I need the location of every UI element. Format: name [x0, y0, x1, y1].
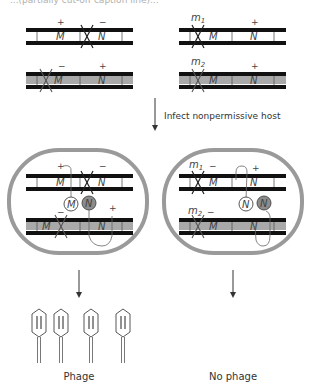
cut-off-caption: ...(partially cut-off caption line)... — [10, 0, 159, 5]
protein-N-label: N — [242, 199, 250, 210]
gene-N-label: N — [98, 31, 106, 42]
phage-label: Phage — [64, 371, 95, 382]
mutation-m1-label: m1 — [189, 159, 203, 172]
plus-sign: + — [109, 203, 117, 213]
top-left-chromosome-2: M N − + — [26, 61, 133, 92]
minus-sign: − — [58, 61, 66, 71]
minus-sign: − — [99, 161, 107, 171]
phage-icon — [54, 309, 68, 363]
phage-icon — [116, 309, 130, 363]
top-right-chromosome-1: M N m1 + — [179, 12, 286, 48]
plus-sign: + — [251, 61, 259, 71]
minus-sign: − — [209, 161, 217, 171]
gene-N-label: N — [250, 221, 258, 232]
gene-M-label: M — [56, 31, 65, 42]
minus-sign: − — [57, 207, 65, 217]
gene-N-label: N — [250, 75, 258, 86]
infect-label: Infect nonpermissive host — [164, 111, 281, 121]
protein-N-gray-label: N — [260, 198, 268, 209]
gene-N-label: N — [98, 75, 106, 86]
gene-M-label: M — [209, 177, 218, 188]
complementation-diagram: ...(partially cut-off caption line)... M… — [0, 0, 310, 383]
gene-M-label: M — [209, 31, 218, 42]
gene-N-label: N — [98, 177, 106, 188]
plus-sign: + — [252, 163, 260, 173]
gene-M-label: M — [42, 221, 51, 232]
mutation-m2-label: m2 — [191, 56, 206, 69]
infect-step-arrow: Infect nonpermissive host — [155, 98, 281, 128]
top-left-chromosome-1: M N + − — [26, 17, 133, 48]
gene-M-label: M — [56, 177, 65, 188]
left-host-cell: M N + − M N M N − + — [9, 150, 147, 253]
no-phage-label: No phage — [209, 371, 257, 382]
gene-N-label: N — [250, 177, 258, 188]
gene-N-label: N — [98, 221, 106, 232]
minus-sign: − — [207, 207, 215, 217]
mutation-m1-label: m1 — [191, 12, 205, 25]
minus-sign: − — [99, 17, 107, 27]
gene-N-label: N — [250, 31, 258, 42]
plus-sign: + — [99, 61, 107, 71]
plus-sign: + — [57, 17, 65, 27]
protein-M-label: M — [67, 199, 76, 210]
protein-N-label: N — [85, 198, 93, 209]
plus-sign: + — [251, 17, 259, 27]
mutation-m2-label: m2 — [188, 205, 203, 218]
gene-M-label: M — [209, 75, 218, 86]
right-host-cell: M N m1 − + N N M N m2 − — [164, 150, 302, 253]
top-right-chromosome-2: M N m2 + — [179, 56, 286, 92]
transcript-line — [236, 166, 247, 200]
gene-M-label: M — [54, 75, 63, 86]
gene-M-label: M — [209, 221, 218, 232]
phage-icon — [32, 309, 46, 363]
phage-icon — [84, 309, 98, 363]
